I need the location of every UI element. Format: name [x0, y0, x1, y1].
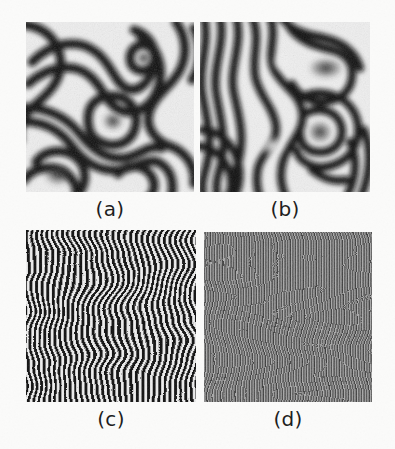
panel-image-b	[200, 22, 370, 192]
panel-image-d	[204, 232, 372, 402]
panel-caption-b: (b)	[200, 199, 370, 219]
panel-image-c	[26, 230, 196, 402]
figure-root: (a)	[0, 0, 395, 449]
panel-caption-a: (a)	[26, 199, 194, 219]
panel-image-a	[26, 22, 194, 192]
panel-caption-c: (c)	[26, 409, 196, 429]
panel-caption-d: (d)	[204, 409, 372, 429]
